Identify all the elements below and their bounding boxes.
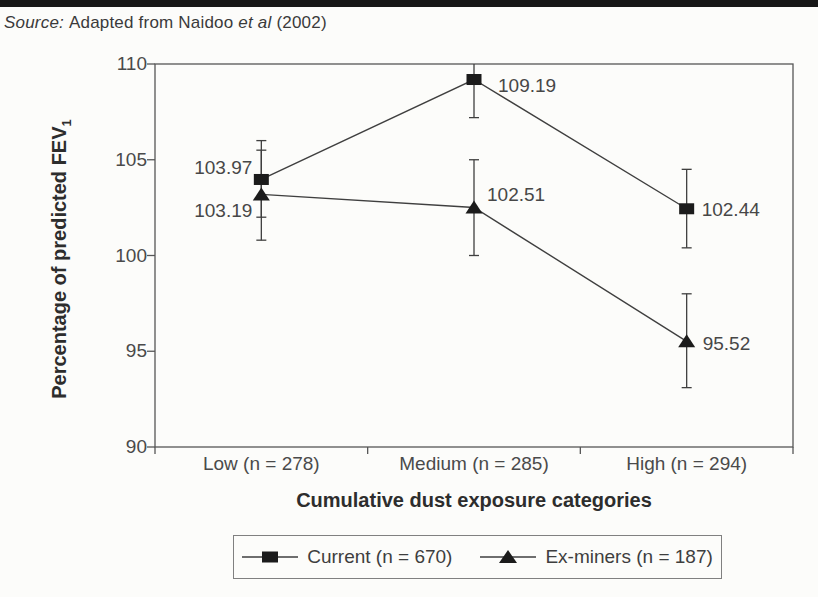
legend-label: Ex-miners (n = 187): [545, 546, 712, 568]
legend-marker: [262, 552, 278, 563]
legend-item: Current (n = 670): [242, 546, 452, 568]
y-axis-title-subscript: 1: [59, 119, 74, 126]
source-etal: et al: [238, 13, 271, 32]
data-point-marker: [253, 187, 270, 200]
series-line: [261, 80, 686, 209]
series-line: [261, 194, 686, 341]
source-text: Adapted from Naidoo: [69, 13, 233, 32]
y-tick-label: 110: [0, 53, 147, 75]
data-point-marker: [678, 334, 695, 347]
y-tick-label: 100: [0, 245, 147, 267]
data-label: 102.51: [487, 184, 597, 206]
legend-box: Current (n = 670)Ex-miners (n = 187): [233, 535, 722, 579]
source-year: (2002): [276, 13, 326, 32]
data-point-marker: [467, 74, 482, 85]
legend-triangle-marker-icon: [480, 549, 536, 565]
source-label: Source:: [4, 13, 64, 32]
data-label: 103.97: [142, 157, 252, 179]
y-tick-label: 105: [0, 149, 147, 171]
legend-square-marker-icon: [242, 549, 298, 565]
plot-frame: [155, 64, 793, 447]
source-caption: Source: Adapted from Naidoo et al (2002): [4, 13, 327, 33]
data-label: 103.19: [142, 200, 252, 222]
data-label: 102.44: [702, 199, 812, 221]
legend-item: Ex-miners (n = 187): [480, 546, 712, 568]
x-tick-label: High (n = 294): [567, 453, 807, 475]
y-tick-label: 90: [0, 436, 147, 458]
x-tick-label: Medium (n = 285): [354, 453, 594, 475]
data-label: 109.19: [498, 75, 608, 97]
figure-scan: Source: Adapted from Naidoo et al (2002)…: [0, 0, 818, 597]
data-label: 95.52: [703, 333, 813, 355]
data-point-marker: [679, 203, 694, 214]
data-point-marker: [466, 200, 483, 213]
x-tick-label: Low (n = 278): [141, 453, 381, 475]
top-black-bar: [0, 0, 818, 7]
y-tick-label: 95: [0, 340, 147, 362]
legend-label: Current (n = 670): [307, 546, 452, 568]
x-axis-title: Cumulative dust exposure categories: [155, 489, 793, 512]
data-point-marker: [254, 174, 269, 185]
